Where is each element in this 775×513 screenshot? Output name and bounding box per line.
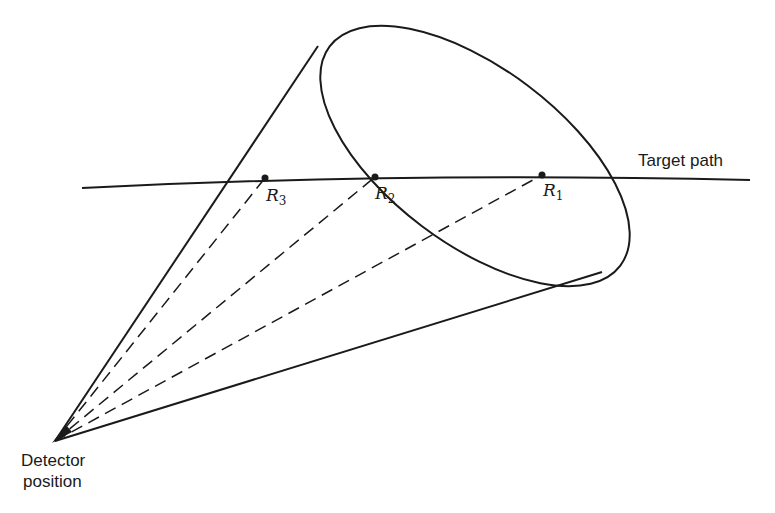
dashed-line-r3 <box>55 178 265 441</box>
target-path-line <box>82 177 750 188</box>
point-r1 <box>539 172 546 179</box>
point-r3 <box>262 175 269 182</box>
cone-upper-edge <box>55 46 318 441</box>
label-r1: R1 <box>542 180 563 203</box>
dashed-line-r2 <box>55 177 375 441</box>
cone-base-ellipse <box>277 0 674 336</box>
cone-diagram: R3 R2 R1 Target path Detector position <box>0 0 775 513</box>
label-r2: R2 <box>374 183 395 206</box>
detector-apex <box>52 425 72 443</box>
detector-label-line2: position <box>23 472 82 491</box>
label-r3: R3 <box>265 185 286 208</box>
dashed-line-r1 <box>55 175 542 441</box>
point-r2 <box>372 174 379 181</box>
target-path-label: Target path <box>638 151 723 170</box>
cone-lower-edge <box>55 272 602 441</box>
detector-label-line1: Detector <box>21 451 86 470</box>
